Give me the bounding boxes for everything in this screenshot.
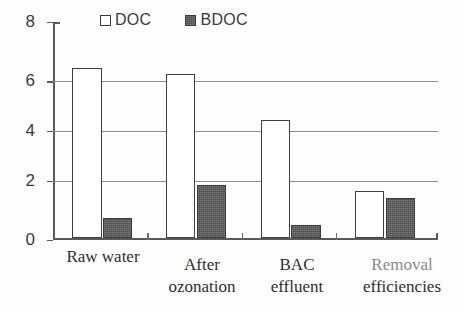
category-label-bac-effluent-line2: effluent [251, 276, 343, 298]
y-tick-6: 6 [47, 81, 53, 82]
category-label-after-ozonation-line1: After [153, 254, 251, 276]
bar-doc-removal-efficiencies [355, 191, 384, 239]
category-label-after-ozonation: After ozonation [153, 254, 251, 298]
bar-doc-after-ozonation [166, 74, 195, 239]
bar-bdoc-bac-effluent [291, 225, 320, 239]
plot-area: 8 6 4 2 0 [53, 22, 438, 240]
gridline-2 [53, 181, 438, 182]
category-label-bac-effluent-line1: BAC [251, 254, 343, 276]
y-tick-label-0: 0 [26, 230, 35, 250]
y-tick-label-8: 8 [26, 12, 35, 32]
y-tick-label-2: 2 [26, 171, 35, 191]
bar-bdoc-after-ozonation [197, 185, 226, 238]
bar-doc-bac-effluent [261, 120, 290, 239]
category-label-after-ozonation-line2: ozonation [153, 276, 251, 298]
y-tick-label-6: 6 [26, 71, 35, 91]
category-label-bac-effluent: BAC effluent [251, 254, 343, 298]
category-label-raw-water: Raw water [53, 246, 153, 268]
gridline-6 [53, 81, 438, 82]
chart-figure: DOC BDOC 8 6 4 2 0 [0, 0, 463, 312]
x-axis-category-labels: Raw water After ozonation BAC effluent R… [53, 246, 463, 308]
x-axis-line [53, 238, 438, 240]
category-label-removal-efficiencies-line2: efficiencies [343, 276, 461, 298]
x-tick-2 [242, 233, 243, 240]
bar-bdoc-removal-efficiencies [386, 198, 415, 239]
bar-bdoc-raw-water [103, 218, 132, 238]
x-axis-right-cap [436, 233, 438, 240]
y-tick-4: 4 [47, 131, 53, 132]
x-tick-3 [336, 233, 337, 240]
gridline-4 [53, 131, 438, 132]
category-label-removal-efficiencies-line1: Removal [343, 254, 461, 276]
category-label-removal-efficiencies: Removal efficiencies [343, 254, 461, 298]
bar-doc-raw-water [72, 68, 101, 238]
category-label-raw-water-line1: Raw water [53, 246, 153, 268]
y-axis-top-cap [53, 22, 60, 24]
x-tick-1 [147, 233, 148, 240]
y-tick-2: 2 [47, 181, 53, 182]
y-tick-0: 0 [47, 240, 53, 241]
y-tick-label-4: 4 [26, 121, 35, 141]
y-tick-8: 8 [47, 22, 53, 23]
